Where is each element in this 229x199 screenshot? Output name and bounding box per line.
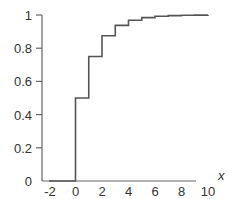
y-tick-label: 0.4 <box>14 108 32 123</box>
x-tick-label: 6 <box>151 184 158 199</box>
y-tick-label: 0.6 <box>14 74 32 89</box>
x-tick-label: 0 <box>72 184 79 199</box>
x-tick-label: 10 <box>201 184 215 199</box>
y-tick-label: 1 <box>25 8 32 23</box>
x-axis: -20246810 x <box>42 168 225 199</box>
x-tick-label: -2 <box>44 184 56 199</box>
cdf-step-chart: 00.20.40.60.81 -20246810 x <box>0 0 229 199</box>
cdf-step-line <box>49 15 208 181</box>
y-tick-label: 0 <box>25 174 32 189</box>
x-tick-label: 8 <box>178 184 185 199</box>
x-ticks: -20246810 <box>44 184 215 199</box>
x-axis-label: x <box>217 168 225 183</box>
y-tick-label: 0.2 <box>14 141 32 156</box>
y-ticks: 00.20.40.60.81 <box>14 8 42 189</box>
x-tick-label: 2 <box>98 184 105 199</box>
y-axis: 00.20.40.60.81 <box>14 8 42 189</box>
y-tick-label: 0.8 <box>14 41 32 56</box>
x-tick-label: 4 <box>125 184 132 199</box>
